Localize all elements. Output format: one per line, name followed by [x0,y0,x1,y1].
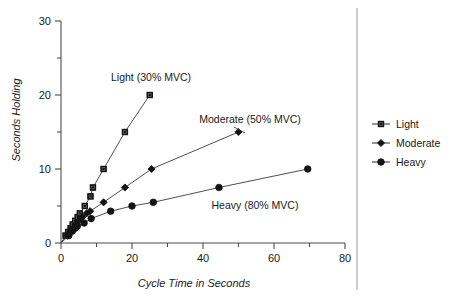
marker-circle [74,223,81,230]
legend-label-heavy: Heavy [396,156,427,168]
marker-square [122,130,127,135]
marker-circle [150,199,157,206]
marker-square [90,185,95,190]
square-center [89,195,91,197]
marker-circle [81,220,88,227]
square-center [84,205,86,207]
annotation-1: Moderate (50% MVC) [199,113,301,125]
square-center [92,186,94,188]
y-tick-label: 30 [39,15,51,27]
square-center [380,123,382,125]
square-center [103,168,105,170]
x-tick-label: 40 [197,252,209,264]
square-center [149,94,151,96]
legend-label-moderate: Moderate [396,137,441,149]
y-tick-label: 20 [39,89,51,101]
marker-square [379,122,384,127]
marker-square [82,204,87,209]
marker-circle [304,166,311,173]
annotation-0: Light (30% MVC) [111,71,191,83]
marker-circle [378,159,385,166]
marker-circle [129,203,136,210]
marker-square [88,194,93,199]
y-axis-title: Seconds Holding [10,78,22,162]
marker-circle [107,208,114,215]
x-axis-title: Cycle Time in Seconds [138,277,251,289]
annotation-2: Heavy (80% MVC) [212,199,299,211]
chart-figure: 0204060800102030 Cycle Time in Seconds S… [0,0,457,298]
y-tick-label: 0 [45,237,51,249]
marker-circle [216,184,223,191]
marker-square [101,167,106,172]
legend-label-light: Light [396,118,419,130]
square-center [79,212,81,214]
x-tick-label: 80 [339,252,351,264]
x-tick-label: 0 [58,252,64,264]
square-center [124,131,126,133]
marker-circle [88,215,95,222]
chart-background [0,0,457,298]
scatter-line-chart: 0204060800102030 Cycle Time in Seconds S… [0,0,457,298]
marker-square [147,93,152,98]
y-tick-label: 10 [39,163,51,175]
x-tick-label: 60 [268,252,280,264]
x-tick-label: 20 [126,252,138,264]
